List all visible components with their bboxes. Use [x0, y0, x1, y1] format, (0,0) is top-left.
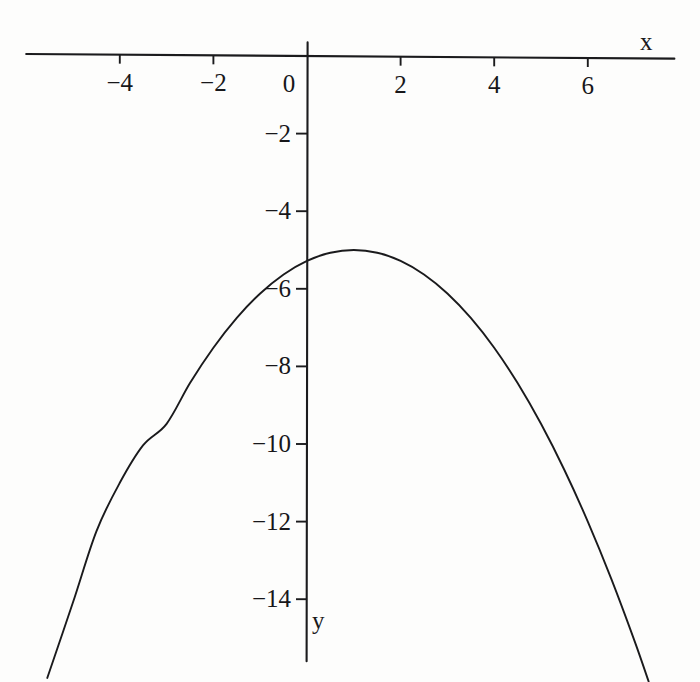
parabola-curve: [47, 250, 648, 681]
y-tick-label: −2: [264, 120, 291, 148]
x-tick-label: 6: [582, 72, 595, 100]
y-tick-label: −10: [252, 430, 291, 458]
y-tick-label: −8: [264, 352, 291, 380]
x-tick-label: 2: [394, 71, 407, 99]
curve-group: [47, 250, 648, 681]
ticks-group: [120, 55, 588, 600]
y-tick-label: −6: [264, 275, 291, 303]
y-axis-line: [307, 42, 308, 661]
x-tick-label: 4: [488, 71, 501, 99]
plot-canvas: [0, 0, 700, 682]
x-axis-line: [26, 54, 674, 59]
y-tick-label: −4: [264, 197, 291, 225]
y-axis-label: y: [312, 607, 325, 635]
x-axis-label: x: [640, 28, 653, 56]
x-tick-label: −4: [106, 69, 133, 97]
x-tick-label: −2: [200, 69, 227, 97]
parabola-plot-figure: −4−20246−2−4−6−8−10−12−14 x y: [0, 0, 700, 682]
y-tick-label: −14: [252, 585, 291, 613]
x-tick-label: 0: [283, 70, 296, 98]
y-tick-label: −12: [252, 508, 291, 536]
axes-group: [26, 42, 674, 661]
